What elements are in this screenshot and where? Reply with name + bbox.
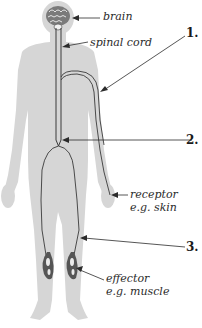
label-spinal-cord: spinal cord <box>90 36 152 49</box>
label-number-3: 3. <box>186 240 199 254</box>
label-receptor: receptor <box>130 188 178 201</box>
muscle-icon <box>43 252 78 279</box>
label-receptor-example: e.g. skin <box>130 201 177 214</box>
label-brain: brain <box>103 10 132 23</box>
label-number-1: 1. <box>186 26 199 40</box>
nervous-system-diagram <box>0 0 202 328</box>
label-effector-example: e.g. muscle <box>106 285 169 298</box>
label-number-2: 2. <box>186 133 199 147</box>
label-effector: effector <box>106 272 149 285</box>
